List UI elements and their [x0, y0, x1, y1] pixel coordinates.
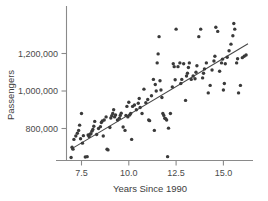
- scatter-point: [158, 79, 161, 82]
- scatter-point: [127, 101, 130, 104]
- scatter-point: [232, 22, 235, 25]
- scatter-point: [216, 30, 219, 33]
- scatter-point: [138, 106, 141, 109]
- scatter-point: [237, 91, 240, 94]
- scatter-point: [223, 82, 226, 85]
- x-tick-label-15-0: 15.0: [215, 168, 233, 178]
- scatter-point: [203, 67, 206, 70]
- scatter-point: [173, 78, 176, 81]
- scatter-point: [121, 125, 124, 128]
- scatter-point: [165, 118, 168, 121]
- scatter-point: [239, 84, 242, 87]
- scatter-points-group: [69, 22, 247, 159]
- scatter-point: [186, 71, 189, 74]
- scatter-point: [244, 53, 247, 56]
- scatter-point: [93, 120, 96, 123]
- scatter-point: [191, 74, 194, 77]
- x-tick-label-10-0: 10.0: [120, 168, 138, 178]
- scatter-point: [184, 99, 187, 102]
- scatter-point: [160, 96, 163, 99]
- scatter-plot-figure: 1,200,000 1,000,000 800,000 7.5 10.0 12.…: [0, 0, 268, 201]
- scatter-point: [235, 61, 238, 64]
- x-tick-label-12-5: 12.5: [167, 168, 185, 178]
- scatter-point: [129, 112, 132, 115]
- scatter-point: [137, 101, 140, 104]
- scatter-point: [130, 138, 133, 141]
- scatter-point: [176, 65, 179, 68]
- scatter-point: [80, 112, 83, 115]
- scatter-point: [153, 129, 156, 132]
- scatter-point: [193, 77, 196, 80]
- scatter-point: [133, 103, 136, 106]
- scatter-point: [194, 71, 197, 74]
- scatter-point: [205, 61, 208, 64]
- scatter-point: [144, 101, 147, 104]
- scatter-point: [150, 94, 153, 97]
- scatter-point: [213, 55, 216, 58]
- scatter-point: [159, 88, 162, 91]
- plot-canvas: 1,200,000 1,000,000 800,000 7.5 10.0 12.…: [0, 0, 268, 201]
- scatter-point: [214, 26, 217, 29]
- scatter-point: [199, 27, 202, 30]
- scatter-point: [135, 108, 138, 111]
- scatter-point: [231, 34, 234, 37]
- x-tick-label-7-5: 7.5: [75, 168, 88, 178]
- scatter-point: [182, 62, 185, 65]
- scatter-point: [79, 137, 82, 140]
- scatter-point: [112, 108, 115, 111]
- scatter-point: [140, 112, 143, 115]
- scatter-point: [222, 88, 225, 91]
- scatter-point: [224, 62, 227, 65]
- scatter-point: [108, 126, 111, 129]
- scatter-point: [197, 35, 200, 38]
- scatter-point: [102, 134, 105, 137]
- scatter-point: [114, 113, 117, 116]
- scatter-point: [81, 141, 84, 144]
- scatter-point: [187, 66, 190, 69]
- scatter-point: [188, 61, 191, 64]
- scatter-point: [71, 147, 74, 150]
- scatter-point: [106, 148, 109, 151]
- y-tick-label-800000: 800,000: [25, 124, 58, 134]
- scatter-point: [171, 85, 174, 88]
- scatter-point: [91, 128, 94, 131]
- y-tick-label-1200000: 1,200,000: [18, 49, 58, 59]
- scatter-point: [207, 91, 210, 94]
- y-tick-label-1000000: 1,000,000: [18, 86, 58, 96]
- scatter-point: [178, 61, 181, 64]
- scatter-point: [95, 133, 98, 136]
- scatter-point: [174, 27, 177, 30]
- y-tick-marks: [62, 54, 67, 129]
- scatter-point: [212, 59, 215, 62]
- scatter-point: [138, 97, 141, 100]
- scatter-point: [173, 65, 176, 68]
- scatter-point: [152, 78, 155, 81]
- scatter-point: [220, 61, 223, 64]
- scatter-point: [77, 129, 80, 132]
- scatter-point: [103, 118, 106, 121]
- scatter-point: [201, 76, 204, 79]
- scatter-point: [229, 42, 232, 45]
- scatter-point: [104, 115, 107, 118]
- scatter-point: [142, 87, 145, 90]
- scatter-point: [78, 123, 81, 126]
- scatter-point: [82, 134, 85, 137]
- scatter-point: [120, 111, 123, 114]
- scatter-point: [179, 82, 182, 85]
- scatter-point: [195, 64, 198, 67]
- scatter-point: [92, 125, 95, 128]
- x-tick-marks: [82, 161, 224, 166]
- x-axis-title: Years Since 1990: [113, 183, 187, 194]
- y-axis-title: Passengers: [5, 70, 16, 120]
- scatter-point: [85, 155, 88, 158]
- scatter-point: [72, 138, 75, 141]
- scatter-point: [69, 156, 72, 159]
- scatter-point: [155, 89, 158, 92]
- scatter-point: [123, 129, 126, 132]
- scatter-point: [146, 98, 149, 101]
- scatter-point: [156, 52, 159, 55]
- scatter-point: [125, 105, 128, 108]
- scatter-point: [166, 155, 169, 158]
- scatter-point: [221, 57, 224, 60]
- scatter-point: [208, 84, 211, 87]
